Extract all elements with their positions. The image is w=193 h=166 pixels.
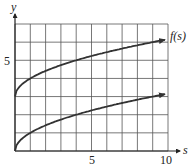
chart: y s 5 5 10 f(s) xyxy=(0,0,193,166)
curve-f-of-s xyxy=(15,40,165,97)
curve-lower xyxy=(15,94,165,151)
curve-label: f(s) xyxy=(170,29,186,43)
x-tick-10: 10 xyxy=(160,153,172,166)
x-axis-label: s xyxy=(183,143,188,157)
y-tick-5: 5 xyxy=(4,54,10,68)
y-axis-label: y xyxy=(10,0,17,14)
x-tick-5: 5 xyxy=(89,153,95,166)
